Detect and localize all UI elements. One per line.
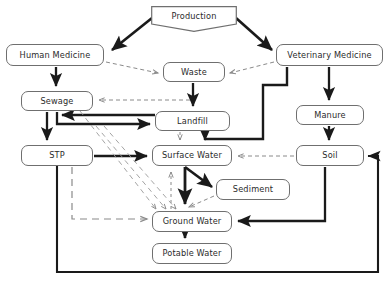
node-label: Soil bbox=[322, 151, 337, 159]
node-label: Human Medicine bbox=[20, 51, 91, 59]
node-label: Landfill bbox=[177, 117, 208, 125]
node-sediment[interactable]: Sediment bbox=[216, 179, 290, 200]
node-soil[interactable]: Soil bbox=[296, 145, 364, 166]
node-label: Sewage bbox=[40, 97, 73, 105]
node-production[interactable]: Production bbox=[151, 6, 237, 32]
node-potable-water[interactable]: Potable Water bbox=[152, 243, 232, 264]
node-ground-water[interactable]: Ground Water bbox=[152, 211, 232, 232]
node-stp[interactable]: STP bbox=[21, 145, 93, 166]
edge-veterinary-to-waste bbox=[230, 62, 274, 73]
node-label: Sediment bbox=[233, 185, 273, 193]
node-label: Veterinary Medicine bbox=[287, 51, 371, 59]
diagram-canvas: Production Human Medicine Veterinary Med… bbox=[0, 0, 389, 284]
node-label: Surface Water bbox=[162, 151, 222, 159]
node-label: Manure bbox=[314, 111, 346, 119]
node-landfill[interactable]: Landfill bbox=[155, 111, 230, 131]
edge-stp-to-groundwater bbox=[72, 167, 147, 219]
node-veterinary-medicine[interactable]: Veterinary Medicine bbox=[276, 44, 383, 66]
node-waste[interactable]: Waste bbox=[163, 62, 225, 82]
node-surface-water[interactable]: Surface Water bbox=[152, 145, 232, 166]
edge-production-to-human bbox=[112, 18, 152, 50]
node-manure[interactable]: Manure bbox=[296, 105, 364, 125]
edge-surfacewater-to-sediment bbox=[185, 167, 212, 187]
node-label: Potable Water bbox=[162, 249, 221, 257]
edge-sewage-to-landfill bbox=[57, 112, 150, 124]
node-human-medicine[interactable]: Human Medicine bbox=[6, 44, 104, 66]
node-label: Waste bbox=[181, 68, 207, 76]
node-label: Production bbox=[171, 12, 216, 25]
edge-sediment-to-groundwater bbox=[189, 196, 214, 207]
edge-production-to-veterinary bbox=[236, 18, 272, 50]
node-sewage[interactable]: Sewage bbox=[21, 91, 93, 111]
node-label: Ground Water bbox=[163, 217, 222, 225]
node-label: STP bbox=[49, 151, 65, 159]
diagram-edges-layer bbox=[0, 0, 389, 284]
edge-human-to-waste bbox=[106, 62, 158, 73]
